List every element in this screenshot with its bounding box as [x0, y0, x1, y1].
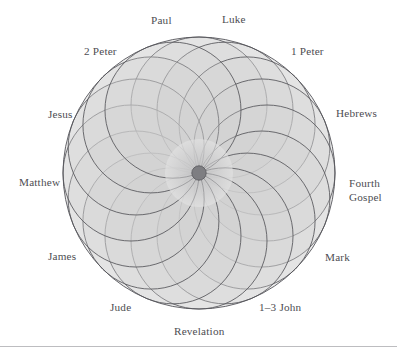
bottom-divider — [0, 346, 397, 347]
rosette-label: Matthew — [19, 176, 60, 189]
rosette-label: 1 Peter — [291, 45, 324, 58]
rosette-label: Jude — [110, 301, 131, 314]
rosette-label: Paul — [151, 14, 172, 27]
rosette-label: Jesus — [48, 108, 73, 121]
rosette-label: James — [48, 250, 76, 263]
rosette-label: 2 Peter — [84, 45, 117, 58]
rosette-label: Fourth — [349, 177, 380, 190]
rosette-label: Hebrews — [336, 107, 377, 120]
rosette-label: 1–3 John — [259, 301, 301, 314]
rosette-label: Gospel — [349, 191, 382, 204]
rosette-label: Revelation — [174, 325, 224, 338]
center-dot — [192, 166, 206, 180]
rosette-figure: PaulLuke2 Peter1 PeterJesusHebrewsMatthe… — [0, 0, 397, 351]
rosette-label: Mark — [325, 251, 350, 264]
rosette-label: Luke — [222, 13, 246, 26]
figure-page: PaulLuke2 Peter1 PeterJesusHebrewsMatthe… — [0, 0, 397, 351]
